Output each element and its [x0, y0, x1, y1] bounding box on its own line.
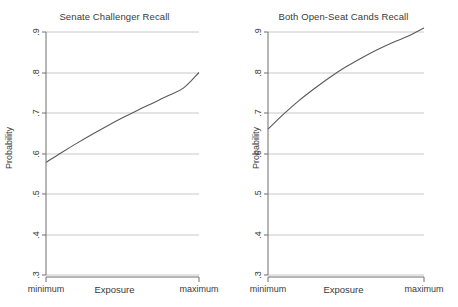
- y-tick-label-0.9: .9: [31, 28, 41, 36]
- gridlines: [268, 32, 424, 275]
- y-tick-label-0.4: .4: [253, 231, 263, 239]
- panel-both-open-seat-cands-recall: Both Open-Seat Cands Recall: [229, 0, 458, 307]
- y-tick-label-0.4: .4: [31, 231, 41, 239]
- y-axis-title: Probability: [4, 113, 14, 183]
- y-tick-label-0.9: .9: [253, 28, 263, 36]
- x-axis: [46, 277, 199, 282]
- plot-area-left: .9 .8 .7 .6 .5 .4 .3 minimum maximum: [0, 0, 229, 307]
- data-line-open-seat-cands: [268, 28, 424, 129]
- y-tick-label-0.8: .8: [253, 69, 263, 77]
- x-axis-title: Exposure: [229, 284, 458, 295]
- x-axis-title: Exposure: [0, 284, 229, 295]
- panel-senate-challenger-recall: Senate Challenger Recall: [0, 0, 229, 307]
- figure-two-panel-line-charts: Senate Challenger Recall: [0, 0, 458, 307]
- data-line-senate-challenger: [46, 73, 199, 163]
- y-tick-label-0.7: .7: [31, 109, 41, 117]
- x-axis: [268, 277, 424, 282]
- y-axis: [264, 32, 268, 275]
- y-tick-label-0.5: .5: [31, 190, 41, 198]
- y-tick-label-0.6: .6: [31, 150, 41, 158]
- y-tick-label-0.8: .8: [31, 69, 41, 77]
- y-tick-label-0.5: .5: [253, 190, 263, 198]
- plot-area-right: .9 .8 .7 .6 .5 .4 .3 minimum maximum: [229, 0, 458, 307]
- y-tick-label-0.3: .3: [253, 271, 263, 279]
- y-axis: [42, 32, 46, 275]
- gridlines: [46, 32, 199, 275]
- y-axis-title: Probability: [251, 113, 261, 183]
- y-tick-label-0.3: .3: [31, 271, 41, 279]
